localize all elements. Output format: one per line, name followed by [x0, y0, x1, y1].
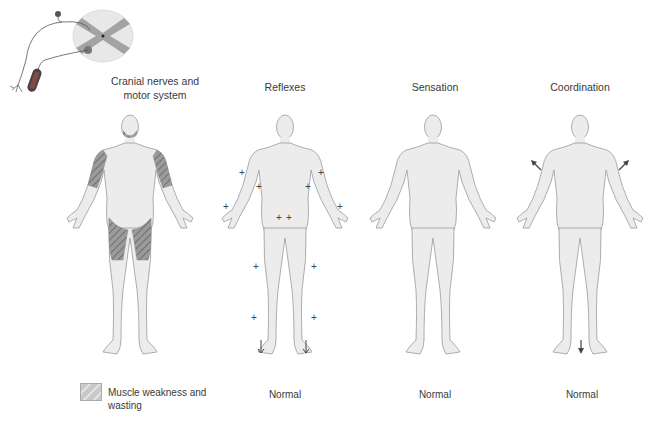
- legend-label: Muscle weakness and: [108, 387, 206, 398]
- reflex-marker-knee-right: +: [311, 262, 317, 272]
- reflex-marker-supinator-right: +: [337, 202, 343, 212]
- body-figure-sensation: [358, 110, 508, 360]
- body-figure-motor: [55, 110, 205, 360]
- reflex-marker-abdominal-right: +: [286, 213, 292, 223]
- legend: Muscle weakness and wasting: [80, 383, 220, 413]
- hatch-swatch-icon: [80, 383, 102, 401]
- panel-title-reflexes: Reflexes: [210, 80, 360, 94]
- panel-title-coordination: Coordination: [505, 80, 655, 94]
- reflex-marker-triceps-right: +: [305, 182, 311, 192]
- status-sensation: Normal: [360, 388, 510, 401]
- title-line: motor system: [123, 89, 186, 101]
- reflex-marker-biceps-left: +: [239, 168, 245, 178]
- panel-title-motor: Cranial nerves and motor system: [80, 74, 230, 102]
- reflex-marker-ankle-left: +: [251, 313, 257, 323]
- panel-title-sensation: Sensation: [360, 80, 510, 94]
- title-line: Cranial nerves and: [111, 75, 199, 87]
- reflex-marker-triceps-left: +: [256, 182, 262, 192]
- reflex-marker-supinator-left: +: [223, 202, 229, 212]
- status-coordination: Normal: [507, 388, 657, 401]
- legend-label: wasting: [108, 400, 142, 411]
- status-reflexes: Normal: [210, 388, 360, 401]
- reflex-marker-abdominal-left: +: [276, 213, 282, 223]
- reflex-marker-biceps-right: +: [318, 168, 324, 178]
- reflex-marker-knee-left: +: [253, 262, 259, 272]
- body-figure-reflexes: + + + + + + + + + + + +: [210, 110, 360, 360]
- reflex-marker-ankle-right: +: [311, 313, 317, 323]
- body-figure-coordination: [505, 110, 655, 360]
